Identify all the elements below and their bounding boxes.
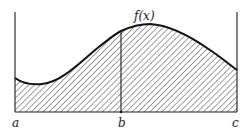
- diagram-canvas: f(x) a b c: [0, 0, 249, 132]
- function-label: f(x): [133, 9, 155, 23]
- label-a: a: [12, 116, 19, 130]
- integral-area-diagram: f(x) a b c: [0, 0, 249, 132]
- label-b: b: [118, 116, 126, 130]
- label-c: c: [232, 116, 239, 130]
- point-b-marker: [120, 111, 123, 114]
